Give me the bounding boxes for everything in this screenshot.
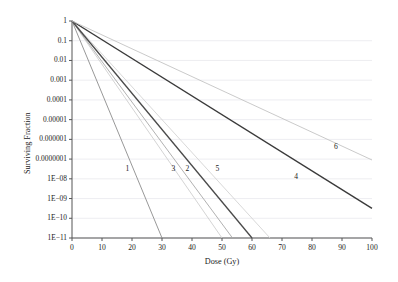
y-tick-label: 0.1 xyxy=(58,37,67,44)
y-tick-label: 0.001 xyxy=(50,76,67,83)
curve-label-1: 1 xyxy=(120,165,136,173)
y-tick-label: 0.01 xyxy=(54,56,67,63)
data-curve-1 xyxy=(72,21,162,238)
data-curve-3 xyxy=(72,21,233,238)
y-tick-label: 0.0001 xyxy=(47,96,67,103)
x-tick-label: 100 xyxy=(357,244,387,252)
x-tick-label: 0 xyxy=(57,244,87,252)
x-axis-title: Dose (Gy) xyxy=(57,258,387,266)
y-tick-label: 0.00001 xyxy=(43,116,67,123)
x-tick-label: 30 xyxy=(147,244,177,252)
chart-figure: 10.10.010.0010.00010.000010.0000010.0000… xyxy=(0,0,398,282)
data-curve-2 xyxy=(72,21,222,238)
y-tick-label: 1 xyxy=(63,17,67,24)
x-tick-label: 80 xyxy=(297,244,327,252)
x-tick-label: 60 xyxy=(237,244,267,252)
data-curve-4 xyxy=(72,21,372,208)
y-tick-label: 0.0000001 xyxy=(36,155,67,162)
data-curves-group xyxy=(72,21,372,238)
curve-label-2: 2 xyxy=(180,165,196,173)
curve-label-3: 3 xyxy=(165,165,181,173)
x-tick-label: 50 xyxy=(207,244,237,252)
curve-label-6: 6 xyxy=(328,143,344,151)
y-tick-label: 0.000001 xyxy=(39,135,67,142)
data-curve-7 xyxy=(72,21,270,238)
x-tick-label: 40 xyxy=(177,244,207,252)
y-tick-label: 1E−11 xyxy=(48,234,68,241)
y-axis-title: Surviving Fraction xyxy=(24,112,32,174)
curve-label-4: 4 xyxy=(288,173,304,181)
x-tick-label: 20 xyxy=(117,244,147,252)
x-tick-label: 70 xyxy=(267,244,297,252)
y-tick-label: 1E−09 xyxy=(47,195,67,202)
y-tick-label: 1E−08 xyxy=(47,175,67,182)
curve-label-5: 5 xyxy=(210,165,226,173)
x-tick-label: 90 xyxy=(327,244,357,252)
tick-marks-group xyxy=(69,21,372,241)
y-tick-label: 1E−10 xyxy=(47,214,67,221)
data-curve-5 xyxy=(72,21,252,238)
x-tick-label: 10 xyxy=(87,244,117,252)
